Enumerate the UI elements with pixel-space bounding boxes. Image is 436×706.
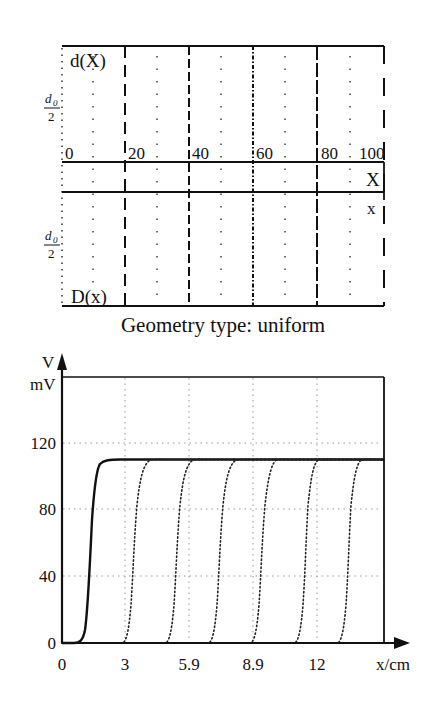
curve-t0	[62, 460, 384, 644]
curve-t5	[62, 459, 384, 643]
geometry-caption: Geometry type: uniform	[121, 313, 325, 337]
geometry-frame	[62, 46, 384, 306]
svg-text:0: 0	[65, 144, 74, 163]
svg-text:12: 12	[309, 655, 326, 674]
svg-text:2: 2	[48, 246, 55, 261]
half-width-label-lower: d 0 2	[44, 228, 60, 261]
upper-strip-label: d(X)	[70, 50, 106, 72]
svg-text:0: 0	[58, 655, 67, 674]
svg-text:0: 0	[48, 634, 57, 653]
curve-t2	[62, 459, 384, 643]
y-axis-label: V	[42, 353, 55, 372]
x-tick-labels: 0 3 5.9 8.9 12	[58, 655, 326, 674]
voltage-chart: V mV x/cm 0 40 80 120 0 3 5.9 8.9 12	[30, 353, 410, 674]
curve-t3	[62, 459, 384, 643]
lower-axis-label: x	[367, 199, 376, 218]
lower-strip-label: D(x)	[71, 286, 107, 308]
curve-t4	[62, 459, 384, 643]
svg-text:20: 20	[128, 144, 145, 163]
chart-frame	[62, 370, 398, 643]
geometry-diagram: d(X) D(x) X x d 0 2 d 0 2 0 20 40 60 80 …	[44, 46, 385, 337]
svg-text:d: d	[45, 228, 52, 243]
svg-text:0: 0	[53, 98, 58, 108]
wavefront-curves	[62, 459, 384, 643]
dotted-gridlines	[93, 56, 350, 304]
y-tick-labels: 0 40 80 120	[31, 434, 57, 653]
svg-text:d: d	[45, 91, 52, 106]
y-axis-unit: mV	[30, 375, 56, 394]
svg-text:80: 80	[321, 144, 338, 163]
figure: d(X) D(x) X x d 0 2 d 0 2 0 20 40 60 80 …	[0, 0, 436, 706]
half-width-label-upper: d 0 2	[44, 91, 60, 124]
y-axis-arrow-icon	[57, 353, 67, 370]
svg-text:40: 40	[192, 144, 209, 163]
curve-t6	[62, 459, 384, 643]
geometry-tick-labels: 0 20 40 60 80 100	[65, 144, 385, 163]
svg-text:3: 3	[121, 655, 130, 674]
svg-text:120: 120	[31, 434, 57, 453]
x-axis-label: x/cm	[376, 655, 410, 674]
x-axis-arrow-icon	[394, 637, 410, 649]
dashed-gridlines	[125, 46, 384, 306]
upper-axis-label: X	[366, 169, 380, 190]
svg-text:8.9: 8.9	[242, 655, 263, 674]
svg-text:0: 0	[53, 235, 58, 245]
svg-text:80: 80	[39, 500, 56, 519]
svg-text:60: 60	[256, 144, 273, 163]
svg-text:100: 100	[359, 144, 385, 163]
svg-text:40: 40	[39, 567, 56, 586]
curve-t1	[62, 459, 384, 643]
svg-text:2: 2	[48, 109, 55, 124]
chart-gridlines	[63, 378, 380, 642]
svg-text:5.9: 5.9	[178, 655, 199, 674]
